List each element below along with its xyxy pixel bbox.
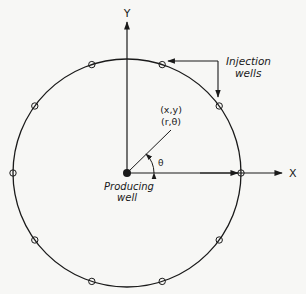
injection-wells-label-line2: wells bbox=[235, 67, 262, 79]
point-cartesian-label: (x,y) bbox=[160, 104, 182, 115]
producing-well-label-line2: well bbox=[117, 192, 137, 203]
angle-arc bbox=[146, 154, 154, 173]
radius-line bbox=[127, 130, 171, 173]
x-axis-label: X bbox=[289, 167, 297, 180]
producing-well-dot bbox=[123, 169, 131, 177]
producing-well-label-line1: Producing bbox=[104, 181, 154, 192]
point-polar-label: (r,θ) bbox=[161, 116, 181, 127]
injection-wells-label-line1: Injection bbox=[226, 55, 271, 67]
y-axis-label: Y bbox=[123, 7, 131, 20]
five-spot-pattern-diagram: Y X (x,y) (r,θ) θ Producing well Injecti… bbox=[0, 0, 306, 294]
angle-label: θ bbox=[158, 158, 164, 168]
